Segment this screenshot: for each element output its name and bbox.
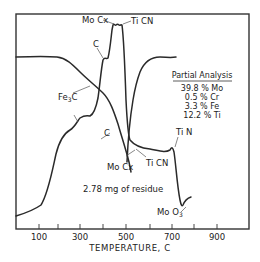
rising-curve [127,57,176,162]
x-axis-ticks [39,224,217,229]
pa-fe: 3.3 % Fe [185,102,220,111]
x-tick-700: 700 [164,232,180,242]
x-tick-100: 100 [31,232,47,242]
label-mocx-top: Mo Cx [82,15,108,25]
thermal-analysis-chart: 100 300 500 700 900 TEMPERATURE, C Mo Cx… [0,0,260,262]
x-tick-500: 500 [118,232,134,242]
label-fe3c: Fe3C [58,92,77,103]
x-axis-title: TEMPERATURE, C [88,243,171,253]
pa-cr: 0.5 % Cr [185,93,220,102]
partial-analysis: Partial Analysis 39.8 % Mo 0.5 % Cr 3.3 … [172,71,233,120]
label-mocx-bottom: Mo Cx [107,162,133,172]
pa-ti: 12.2 % Ti [183,111,220,120]
label-c-top: C [93,39,99,49]
plot-frame [16,14,249,229]
label-ticn-top: Ti CN [130,16,153,26]
label-c-mid: C [104,128,110,138]
label-moo3: Mo O3 [157,207,183,218]
pa-mo: 39.8 % Mo [181,84,223,93]
x-tick-900: 900 [209,232,225,242]
x-tick-300: 300 [72,232,88,242]
partial-analysis-title: Partial Analysis [172,71,233,80]
tg-curve [16,56,131,172]
residue-note: 2.78 mg of residue [83,184,163,194]
label-ticn-bottom: Ti CN [145,158,168,168]
label-tin: Ti N [175,127,192,137]
